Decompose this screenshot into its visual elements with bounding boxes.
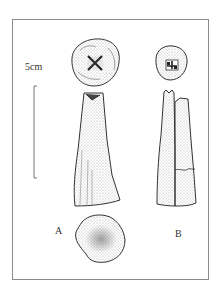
specimen-a-label: A [55,226,62,236]
specimen-b-top-view [156,46,187,80]
specimen-a-top-view [72,39,119,86]
specimen-b-side-view [157,90,196,206]
specimen-b-label: B [175,229,182,239]
scale-label: 5cm [25,62,42,72]
specimen-a-side-view [74,93,120,206]
specimen-a-base-view [76,215,125,262]
artifact-illustration [0,0,220,293]
scale-bar [34,86,37,178]
